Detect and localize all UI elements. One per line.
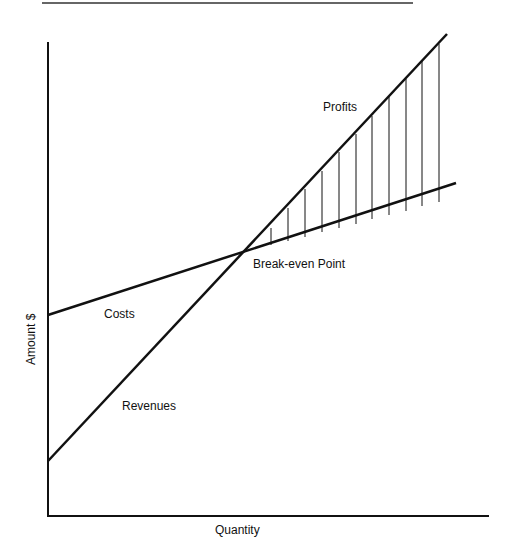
revenues-label: Revenues — [122, 399, 176, 413]
costs-line — [48, 183, 456, 315]
revenues-line — [48, 34, 447, 461]
profits-label: Profits — [323, 100, 357, 114]
costs-label: Costs — [104, 307, 135, 321]
break-even-label: Break-even Point — [253, 257, 346, 271]
x-axis-label: Quantity — [215, 523, 260, 537]
y-axis-label: Amount $ — [24, 313, 38, 365]
breakeven-chart: Costs Revenues Break-even Point Profits … — [0, 0, 514, 560]
